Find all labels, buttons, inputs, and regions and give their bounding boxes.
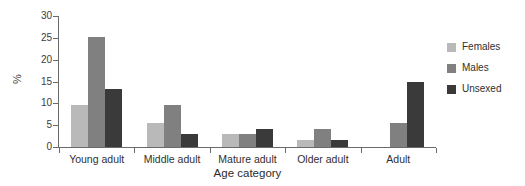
bar-females — [297, 140, 314, 147]
plot-area — [59, 16, 436, 147]
bar-unsexed — [407, 82, 424, 147]
bar-males — [88, 37, 105, 147]
y-axis-tick-label: 0 — [24, 142, 52, 152]
bar-males — [239, 134, 256, 147]
y-axis-tick-mark — [53, 125, 58, 126]
y-axis-tick-label: 5 — [24, 120, 52, 130]
bar-females — [222, 134, 239, 147]
y-axis-tick-mark — [53, 16, 58, 17]
legend-label: Males — [462, 63, 489, 73]
x-axis-title: Age category — [59, 167, 436, 179]
legend-swatch-males — [447, 64, 456, 73]
y-axis-tick-mark — [53, 103, 58, 104]
bar-group — [147, 16, 198, 147]
bar-males — [390, 123, 407, 147]
y-axis-tick-mark — [53, 60, 58, 61]
bar-unsexed — [181, 134, 198, 147]
x-axis-category-label: Older adult — [285, 153, 360, 165]
legend-swatch-females — [447, 43, 456, 52]
x-axis-category-label: Adult — [361, 153, 436, 165]
x-axis-line — [58, 147, 436, 148]
y-axis-tick-label: 30 — [24, 11, 52, 21]
legend-label: Unsexed — [462, 84, 501, 94]
x-axis-category-label: Middle adult — [134, 153, 209, 165]
x-axis-category-label: Young adult — [59, 153, 134, 165]
bar-group — [222, 16, 273, 147]
bar-females — [71, 105, 88, 147]
legend-item: Males — [447, 62, 525, 74]
legend-item: Unsexed — [447, 83, 525, 95]
bar-chart-figure: % 051015202530 Young adultMiddle adultMa… — [0, 0, 525, 186]
bar-unsexed — [331, 140, 348, 147]
y-axis-tick-label: 15 — [24, 77, 52, 87]
y-axis-tick-mark — [53, 147, 58, 148]
bar-unsexed — [105, 89, 122, 147]
legend-label: Females — [462, 42, 500, 52]
y-axis-tick-label: 10 — [24, 98, 52, 108]
bar-group — [71, 16, 122, 147]
y-axis-tick-mark — [53, 38, 58, 39]
y-axis-tick-mark — [53, 82, 58, 83]
y-axis-tick-label: 25 — [24, 33, 52, 43]
bar-group — [297, 16, 348, 147]
x-axis-tick-mark — [436, 148, 437, 153]
bar-males — [314, 129, 331, 147]
bar-females — [147, 123, 164, 147]
y-axis-tick-label: 20 — [24, 55, 52, 65]
x-axis-category-label: Mature adult — [210, 153, 285, 165]
y-axis-tick-labels: 051015202530 — [24, 0, 52, 186]
chart-legend: FemalesMalesUnsexed — [447, 41, 525, 104]
bar-males — [164, 105, 181, 147]
bar-unsexed — [256, 129, 273, 147]
legend-swatch-unsexed — [447, 85, 456, 94]
legend-item: Females — [447, 41, 525, 53]
bar-group — [373, 16, 424, 147]
